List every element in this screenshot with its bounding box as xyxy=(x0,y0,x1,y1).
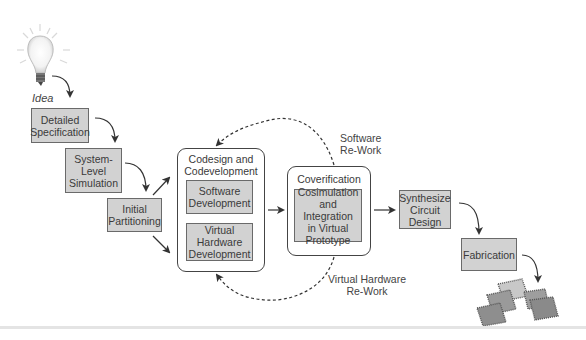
arrow-idea-to-spec xyxy=(52,76,70,96)
lightbulb-icon xyxy=(17,24,70,86)
chips-icon xyxy=(477,279,558,326)
codesign-flow-diagram: Idea Detailed Specification System- Leve… xyxy=(0,0,586,340)
software-rework-label: Software Re-Work xyxy=(340,132,381,156)
idea-label: Idea xyxy=(32,92,53,104)
step-system-level-simulation: System- Level Simulation xyxy=(65,148,122,193)
arrow-synthesize-to-fabrication xyxy=(459,203,479,233)
step-virtual-hardware-development: Virtual Hardware Development xyxy=(186,223,253,261)
hardware-rework-label: Virtual Hardware Re-Work xyxy=(328,273,406,297)
codesign-group-title: Codesign and Codevelopment xyxy=(178,153,264,177)
arrow-fabrication-to-chips xyxy=(522,255,538,281)
arrow-sim-to-part xyxy=(125,163,146,190)
step-cosimulation-integration: Cosimulation and Integration in Virtual … xyxy=(294,189,362,242)
arrow-part-to-codesign-upper xyxy=(153,178,169,195)
step-synthesize-circuit-design: Synthesize Circuit Design xyxy=(399,190,451,229)
step-software-development: Software Development xyxy=(186,180,253,214)
step-initial-partitioning: Initial Partitioning xyxy=(107,198,162,232)
bottom-divider xyxy=(0,326,586,329)
step-fabrication: Fabrication xyxy=(461,238,517,271)
step-detailed-specification: Detailed Specification xyxy=(31,108,89,143)
arrow-spec-to-sim xyxy=(95,118,115,141)
coverification-group-title: Coverification xyxy=(288,173,370,185)
arrow-part-to-codesign-lower xyxy=(153,236,169,252)
